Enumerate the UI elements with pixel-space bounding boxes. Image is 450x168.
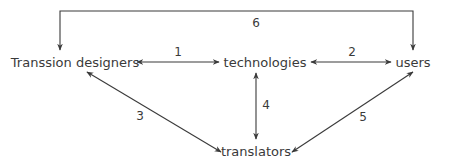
- edge-3-arrow: [87, 72, 221, 152]
- edge-6-arrow: [60, 11, 413, 50]
- node-transsion-designers: Transsion designers: [11, 56, 139, 69]
- edge-4-label: 4: [262, 99, 270, 111]
- node-users: users: [395, 56, 430, 69]
- edge-1-label: 1: [174, 46, 182, 58]
- edge-6-label: 6: [252, 17, 260, 29]
- diagram-canvas: Transsion designers technologies users t…: [0, 0, 450, 168]
- edge-3-label: 3: [136, 110, 144, 122]
- edge-5-arrow: [292, 72, 413, 152]
- edge-2-label: 2: [348, 46, 356, 58]
- node-technologies: technologies: [224, 56, 307, 69]
- node-translators: translators: [221, 145, 291, 158]
- edge-5-label: 5: [359, 111, 367, 123]
